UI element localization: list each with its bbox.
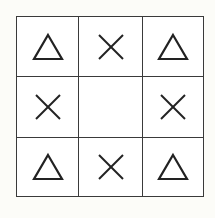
grid-cell-r3-c1 (17, 138, 79, 196)
triangle-icon (157, 153, 189, 181)
cross-icon (32, 93, 64, 121)
grid-cell-r2-c3 (143, 77, 203, 138)
grid-cell-r1-c1 (17, 17, 79, 77)
cross-icon (95, 153, 127, 181)
triangle-icon (32, 33, 64, 61)
grid-cell-r3-c2 (79, 138, 143, 196)
triangle-icon (157, 33, 189, 61)
grid-cell-r2-c1 (17, 77, 79, 138)
grid-cell-r1-c3 (143, 17, 203, 77)
cross-icon (95, 33, 127, 61)
symbol-grid (16, 16, 204, 197)
grid-cell-r1-c2 (79, 17, 143, 77)
grid-cell-r2-c2 (79, 77, 143, 138)
cross-icon (157, 93, 189, 121)
triangle-icon (32, 153, 64, 181)
grid-cell-r3-c3 (143, 138, 203, 196)
